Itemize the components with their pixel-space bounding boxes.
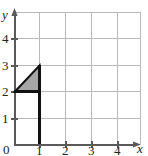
x-axis-label: x: [136, 141, 143, 156]
x-tick-label-3: 3: [88, 143, 95, 156]
origin-label: 0: [3, 142, 10, 156]
grid-horizontal-lines: [14, 13, 141, 119]
shaded-triangle: [15, 66, 40, 92]
grid-vertical-lines: [40, 12, 141, 144]
coordinate-plot: y x 0 1 2 3 4 1 2 3 4: [0, 0, 148, 156]
x-tick-label-1: 1: [36, 143, 43, 156]
y-tick-label-2: 2: [2, 84, 9, 99]
coordinate-plane-figure: y x 0 1 2 3 4 1 2 3 4: [0, 0, 148, 156]
y-tick-label-4: 4: [2, 31, 9, 46]
y-axis-label: y: [0, 7, 8, 22]
x-axis: [14, 141, 141, 147]
y-axis: [11, 8, 17, 144]
x-tick-label-2: 2: [62, 143, 69, 156]
y-tick-label-3: 3: [2, 58, 9, 73]
y-tick-label-1: 1: [2, 111, 9, 126]
x-tick-label-4: 4: [114, 143, 121, 156]
